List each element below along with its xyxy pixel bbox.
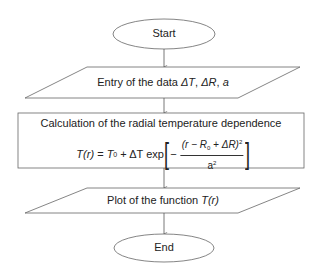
- output-label: Plot of the function T(r): [107, 194, 219, 206]
- formula-lhs: T(r): [76, 148, 94, 160]
- start-label: Start: [152, 27, 175, 39]
- formula-equals: =: [94, 148, 107, 160]
- output-label-prefix: Plot of the function: [107, 194, 201, 206]
- formula-numerator-sup: 2: [239, 139, 242, 145]
- formula-minus: −: [170, 148, 176, 160]
- formula-numerator: (r − R0 + ΔR)2: [181, 136, 244, 156]
- input-label-prefix: Entry of the data: [97, 76, 181, 88]
- formula-fraction: (r − R0 + ΔR)2 a2: [181, 136, 244, 172]
- formula-plus-exp: + ΔT exp: [117, 148, 164, 160]
- formula-numerator-tail: + ΔR): [210, 139, 239, 150]
- formula-t0: T: [107, 148, 114, 160]
- input-var-delta-r: ΔR: [201, 76, 216, 88]
- end-label: End: [154, 241, 174, 253]
- process-formula: T(r) = T0 + ΔT exp [ − (r − R0 + ΔR)2 a2…: [76, 136, 249, 172]
- formula-left-bracket: [: [164, 141, 169, 167]
- process-title: Calculation of the radial temperature de…: [41, 117, 282, 129]
- output-fn: T(r): [201, 194, 219, 206]
- formula-right-bracket: ]: [245, 141, 250, 167]
- input-var-delta-t: ΔT: [181, 76, 195, 88]
- formula-denominator-sup: 2: [213, 160, 216, 166]
- input-label: Entry of the data ΔT, ΔR, a: [97, 76, 229, 88]
- formula-numerator-head: (r − R: [182, 139, 207, 150]
- input-var-a: a: [223, 76, 229, 88]
- formula-denominator: a2: [208, 156, 217, 172]
